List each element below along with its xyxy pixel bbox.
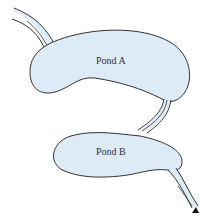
pond-diagram — [0, 0, 210, 219]
arrow-icon — [192, 207, 199, 213]
pond-a-label: Pond A — [96, 55, 126, 66]
pond-b-label: Pond B — [96, 146, 126, 157]
outflow-stream — [168, 168, 199, 213]
